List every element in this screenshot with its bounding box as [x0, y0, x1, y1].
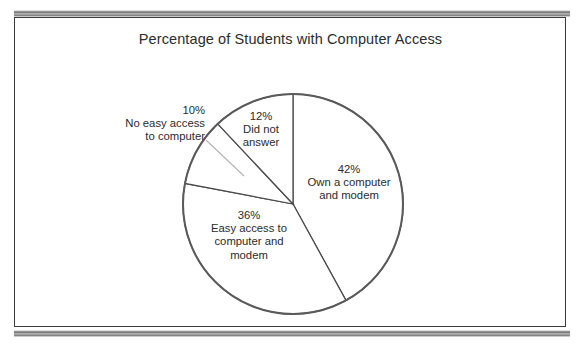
pie-label-own: 42% Own a computer and modem [293, 163, 405, 203]
pie-label-easy-access-line3: modem [193, 249, 305, 262]
pie-label-easy-access-line1: Easy access to [193, 222, 305, 235]
chart-page: Percentage of Students with Computer Acc… [0, 0, 581, 352]
pie-label-no-easy-access: 10% No easy access to computer [83, 104, 205, 144]
pie-label-did-not-answer-line2: answer [227, 136, 295, 149]
pie-label-no-easy-access-percent: 10% [83, 104, 205, 117]
pie-label-own-line2: and modem [293, 189, 405, 202]
pie-label-easy-access-line2: computer and [193, 235, 305, 248]
pie-label-own-percent: 42% [293, 163, 405, 176]
pie-label-easy-access-percent: 36% [193, 209, 305, 222]
pie-label-easy-access: 36% Easy access to computer and modem [193, 209, 305, 262]
pie-label-no-easy-access-line2: to computer [83, 130, 205, 143]
pie-chart-graphic [0, 0, 581, 352]
pie-label-did-not-answer-line1: Did not [227, 123, 295, 136]
pie-label-no-easy-access-line1: No easy access [83, 117, 205, 130]
pie-label-did-not-answer: 12% Did not answer [227, 110, 295, 150]
pie-label-own-line1: Own a computer [293, 176, 405, 189]
pie-label-did-not-answer-percent: 12% [227, 110, 295, 123]
